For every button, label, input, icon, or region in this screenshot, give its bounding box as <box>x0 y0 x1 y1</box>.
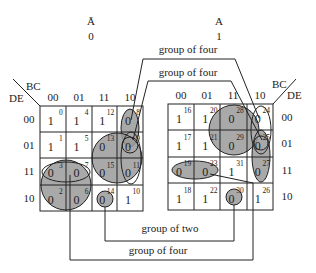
cell-value: 0 <box>229 112 235 126</box>
cell-minterm-index: 17 <box>184 133 192 142</box>
cell-value: 0 <box>176 165 182 179</box>
cell-value: 1 <box>48 114 54 128</box>
cell-value: 1 <box>176 192 182 206</box>
cell-value: 0 <box>125 166 131 180</box>
cell-minterm-index: 18 <box>184 186 192 195</box>
cell-value: 0 <box>255 165 261 179</box>
left-row-label: 10 <box>24 192 36 204</box>
cell-value: 0 <box>99 140 105 154</box>
cell-value: 1 <box>176 112 182 126</box>
annotation-top-group-2: group of four <box>159 66 218 78</box>
right-col-label: 01 <box>202 89 213 101</box>
cell-value: 1 <box>74 114 80 128</box>
cell-minterm-index: 19 <box>184 159 192 168</box>
left-col-label: 00 <box>48 91 60 103</box>
right-row-label: 11 <box>282 164 293 176</box>
left-row-label: 11 <box>24 165 35 177</box>
right-row-label: 00 <box>282 111 294 123</box>
cell-minterm-index: 13 <box>107 134 115 143</box>
right-col-var-label: BC <box>272 78 287 90</box>
cell-value: 1 <box>202 192 208 206</box>
cell-value: 0 <box>48 166 54 180</box>
cell-minterm-index: 7 <box>85 161 89 170</box>
cell-value: 0 <box>99 193 105 207</box>
right-row-var-label: DE <box>287 89 302 101</box>
karnaugh-map-diagram: Ā 0 A 1 <box>0 0 316 273</box>
left-row-var-label: DE <box>9 92 24 104</box>
cell-minterm-index: 4 <box>85 108 89 117</box>
cell-minterm-index: 6 <box>85 187 89 196</box>
cell-minterm-index: 27 <box>263 159 271 168</box>
cell-minterm-index: 23 <box>210 159 218 168</box>
left-row-label: 00 <box>24 113 36 125</box>
left-col-label: 01 <box>74 91 85 103</box>
cell-minterm-index: 31 <box>236 159 244 168</box>
cell-minterm-index: 9 <box>136 134 140 143</box>
left-col-var-label: BC <box>26 80 41 92</box>
cell-value: 0 <box>229 192 235 206</box>
cell-value: 0 <box>48 193 54 207</box>
cell-value: 0 <box>125 114 131 128</box>
cell-value: 1 <box>99 114 105 128</box>
right-map-variable-value: 1 <box>216 30 222 42</box>
cell-value: 1 <box>74 140 80 154</box>
cell-minterm-index: 3 <box>59 161 63 170</box>
cell-value: 0 <box>74 166 80 180</box>
cell-minterm-index: 26 <box>263 186 271 195</box>
left-map-variable-value: 0 <box>88 30 94 42</box>
annotation-bottom-group-2: group of four <box>129 244 188 256</box>
cell-value: 0 <box>74 193 80 207</box>
cell-value: 1 <box>176 139 182 153</box>
cell-value: 0 <box>255 139 261 153</box>
cell-minterm-index: 16 <box>184 106 192 115</box>
cell-minterm-index: 30 <box>236 186 244 195</box>
cell-value: 0 <box>229 139 235 153</box>
cell-value: 0 <box>99 166 105 180</box>
cell-minterm-index: 28 <box>236 106 244 115</box>
cell-value: 1 <box>202 112 208 126</box>
cell-minterm-index: 25 <box>263 133 271 142</box>
cell-minterm-index: 24 <box>263 106 271 115</box>
cell-minterm-index: 20 <box>210 106 218 115</box>
cell-minterm-index: 22 <box>210 186 218 195</box>
cell-minterm-index: 29 <box>236 133 244 142</box>
left-row-label: 01 <box>24 139 35 151</box>
right-col-label: 00 <box>176 89 188 101</box>
annotation-bottom-group-1: group of two <box>142 222 199 234</box>
cell-value: 0 <box>125 140 131 154</box>
right-row-label: 01 <box>282 137 293 149</box>
cell-value: 1 <box>48 140 54 154</box>
cell-value: 1 <box>229 165 235 179</box>
cell-minterm-index: 11 <box>133 161 140 170</box>
right-map-variable-label: A <box>215 15 223 27</box>
left-map-variable-label: Ā <box>87 15 95 27</box>
cell-value: 1 <box>202 139 208 153</box>
cell-minterm-index: 15 <box>107 161 115 170</box>
cell-value: 1 <box>125 193 131 207</box>
cell-minterm-index: 14 <box>107 187 115 196</box>
cell-minterm-index: 12 <box>107 108 115 117</box>
cell-minterm-index: 2 <box>59 187 63 196</box>
left-col-label: 11 <box>99 91 110 103</box>
cell-value: 0 <box>202 165 208 179</box>
cell-minterm-index: 0 <box>59 108 63 117</box>
cell-minterm-index: 1 <box>59 134 63 143</box>
cell-minterm-index: 21 <box>210 133 218 142</box>
cell-value: 1 <box>255 192 261 206</box>
right-row-label: 10 <box>282 190 294 202</box>
cell-minterm-index: 10 <box>133 187 141 196</box>
cell-minterm-index: 5 <box>85 134 89 143</box>
right-col-label: 10 <box>255 89 267 101</box>
annotation-top-group-1: group of four <box>159 43 218 55</box>
